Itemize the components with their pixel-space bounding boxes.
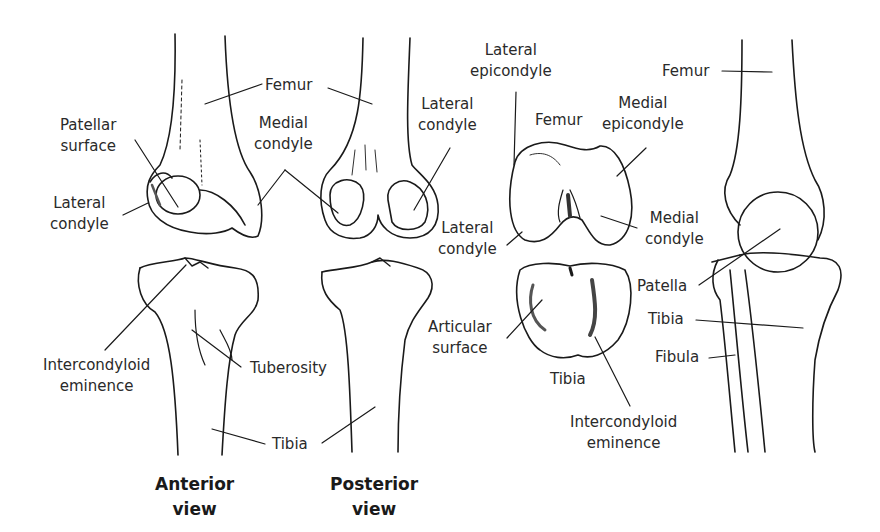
label-intercondyloid-eminence-superior-line2: eminence (570, 433, 677, 454)
label-lateral-epicondyle-line2: epicondyle (470, 61, 552, 82)
label-patellar-surface: Patellar surface (60, 115, 116, 157)
label-medial-epicondyle-line1: Medial (602, 93, 684, 114)
label-medial-epicondyle: Medial epicondyle (602, 93, 684, 135)
label-intercondyloid-eminence-anterior-line1: Intercondyloid (43, 355, 150, 376)
label-lateral-condyle-inferior-line2: condyle (438, 239, 497, 260)
label-intercondyloid-eminence-anterior-line2: eminence (43, 376, 150, 397)
label-lateral-epicondyle: Lateral epicondyle (470, 40, 552, 82)
caption-anterior-view: Anterior view (155, 472, 234, 522)
label-articular-surface-line2: surface (428, 338, 492, 359)
lateral-knee-drawing (712, 40, 841, 452)
label-medial-epicondyle-line2: epicondyle (602, 114, 684, 135)
caption-posterior-view-line2: view (330, 497, 418, 522)
label-lateral-condyle-inferior: Lateral condyle (438, 218, 497, 260)
label-tibia-anterior-posterior: Tibia (272, 434, 308, 455)
label-lateral-condyle-posterior-line1: Lateral (418, 94, 477, 115)
label-medial-condyle-inferior-line2: condyle (645, 229, 704, 250)
label-lateral-condyle-anterior-line1: Lateral (50, 193, 109, 214)
label-tibia-lateral: Tibia (648, 309, 684, 330)
caption-posterior-view: Posterior view (330, 472, 418, 522)
superior-tibia-drawing (517, 263, 631, 357)
label-femur-inferior: Femur (535, 110, 582, 131)
posterior-femur-drawing (321, 38, 438, 238)
label-lateral-condyle-inferior-line1: Lateral (438, 218, 497, 239)
label-medial-condyle-inferior: Medial condyle (645, 208, 704, 250)
label-lateral-condyle-anterior: Lateral condyle (50, 193, 109, 235)
label-medial-condyle-posterior-line2: condyle (254, 134, 313, 155)
label-femur-lateral: Femur (662, 61, 709, 82)
caption-posterior-view-line1: Posterior (330, 472, 418, 497)
label-lateral-condyle-posterior: Lateral condyle (418, 94, 477, 136)
posterior-tibia-drawing (322, 258, 432, 452)
label-tibia-superior: Tibia (550, 369, 586, 390)
inferior-femur-drawing (510, 142, 632, 245)
label-patella: Patella (637, 276, 687, 297)
label-tuberosity: Tuberosity (250, 358, 327, 379)
label-patellar-surface-line1: Patellar (60, 115, 116, 136)
label-patellar-surface-line2: surface (60, 136, 116, 157)
label-lateral-condyle-anterior-line2: condyle (50, 214, 109, 235)
label-medial-condyle-inferior-line1: Medial (645, 208, 704, 229)
label-intercondyloid-eminence-superior-line1: Intercondyloid (570, 412, 677, 433)
label-medial-condyle-posterior: Medial condyle (254, 113, 313, 155)
anterior-femur-drawing (147, 34, 262, 237)
label-medial-condyle-posterior-line1: Medial (254, 113, 313, 134)
label-fibula: Fibula (655, 347, 699, 368)
label-intercondyloid-eminence-superior: Intercondyloid eminence (570, 412, 677, 454)
label-femur-anterior: Femur (265, 75, 312, 96)
anterior-tibia-drawing (138, 258, 258, 455)
label-lateral-condyle-posterior-line2: condyle (418, 115, 477, 136)
label-articular-surface-line1: Articular (428, 317, 492, 338)
label-articular-surface: Articular surface (428, 317, 492, 359)
caption-anterior-view-line2: view (155, 497, 234, 522)
label-lateral-epicondyle-line1: Lateral (470, 40, 552, 61)
caption-anterior-view-line1: Anterior (155, 472, 234, 497)
label-intercondyloid-eminence-anterior: Intercondyloid eminence (43, 355, 150, 397)
knee-bones-illustration (0, 0, 880, 532)
